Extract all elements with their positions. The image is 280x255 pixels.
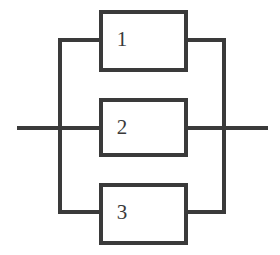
reliability-block-diagram: 1 2 3 <box>0 0 280 255</box>
block-1-label: 1 <box>111 29 133 50</box>
block-2-label: 2 <box>111 117 133 138</box>
diagram-svg <box>0 0 280 255</box>
block-3-label: 3 <box>111 202 133 223</box>
